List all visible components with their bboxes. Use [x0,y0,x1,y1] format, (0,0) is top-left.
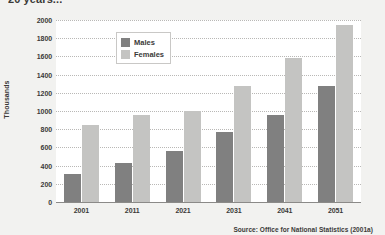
legend-item-males: Males [121,36,164,48]
chart-legend: Males Females [116,32,171,64]
legend-label-males: Males [134,38,155,47]
x-axis-tick-label: 2011 [107,207,158,214]
source-note: Source: Office for National Statistics (… [233,226,373,233]
bar-males-2051 [318,86,335,202]
x-axis-tick-labels: 200120112021203120412051 [56,205,361,219]
legend-swatch-females-icon [121,50,130,59]
bar-group [259,20,310,202]
bar-males-2011 [115,163,132,202]
y-axis-tick-label: 1000 [6,108,52,115]
bar-females-2021 [184,111,201,202]
y-axis-tick-labels: 0200400600800100012001400160018002000 [0,20,52,202]
y-axis-tick-label: 1400 [6,71,52,78]
y-axis-tick-label: 1200 [6,89,52,96]
y-axis-tick-label: 200 [6,180,52,187]
legend-label-females: Females [134,50,164,59]
bar-group [209,20,260,202]
bar-females-2041 [285,58,302,202]
bar-males-2031 [216,132,233,202]
bar-females-2051 [336,25,353,202]
y-axis-tick-label: 600 [6,144,52,151]
bar-males-2041 [267,115,284,202]
bar-chart: Thousands 020040060080010001200140016001… [0,12,385,223]
bar-males-2001 [64,174,81,202]
bar-females-2011 [133,115,150,202]
x-axis-tick-label: 2021 [158,207,209,214]
page-heading: 20 years... [8,0,62,6]
plot-area: Males Females [56,20,361,203]
x-axis-tick-label: 2031 [209,207,260,214]
x-axis-tick-label: 2001 [56,207,107,214]
x-axis-tick-label: 2051 [310,207,361,214]
bar-females-2031 [234,86,251,202]
y-axis-tick-label: 800 [6,126,52,133]
y-axis-tick-label: 400 [6,162,52,169]
bar-group [310,20,361,202]
y-axis-tick-label: 0 [6,199,52,206]
legend-swatch-males-icon [121,38,130,47]
bar-group [56,20,107,202]
y-axis-tick-label: 2000 [6,17,52,24]
chart-page: 20 years... Thousands 020040060080010001… [0,0,385,235]
bar-females-2001 [82,125,99,202]
x-axis-tick-label: 2041 [259,207,310,214]
y-axis-tick-label: 1600 [6,53,52,60]
bar-males-2021 [166,151,183,202]
y-axis-tick-label: 1800 [6,35,52,42]
legend-item-females: Females [121,48,164,60]
